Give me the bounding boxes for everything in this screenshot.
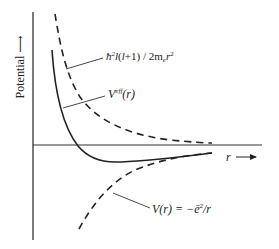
coulomb-curve	[79, 153, 212, 229]
centrifugal-leader	[66, 58, 103, 69]
right-arrow-head	[250, 154, 257, 160]
coulomb-leader	[113, 193, 150, 208]
potential-diagram: ħ2l(l+1) / 2mer2 Veff(r) r V(r) = −ē2/r	[0, 0, 279, 249]
effective-leader	[63, 96, 105, 108]
centrifugal-label: ħ2l(l+1) / 2mer2	[106, 50, 174, 64]
coulomb-label: V(r) = −ē2/r	[152, 202, 211, 216]
centrifugal-curve	[55, 14, 212, 143]
r-axis-label: r	[226, 150, 231, 164]
effective-potential-label: Veff(r)	[108, 87, 135, 101]
